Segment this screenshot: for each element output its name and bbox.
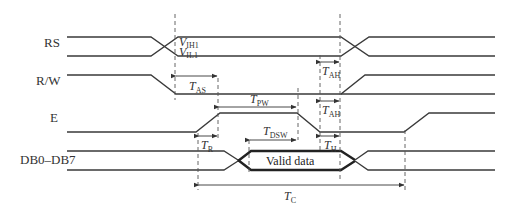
signal-label-rw: R/W bbox=[36, 73, 61, 88]
th-label: TH bbox=[324, 138, 337, 154]
rs-waveform bbox=[67, 37, 495, 56]
tah-rs-label: TAH bbox=[322, 64, 340, 80]
tdsw-label: TDSW bbox=[263, 124, 288, 140]
signal-label-rs: RS bbox=[44, 35, 60, 50]
timing-diagram: RS R/W E DB0–DB7 Valid data VI bbox=[0, 0, 506, 212]
signal-label-db: DB0–DB7 bbox=[20, 152, 76, 167]
tas-label: TAS bbox=[189, 79, 206, 95]
tah-rw-label: TAH bbox=[322, 103, 340, 119]
valid-data-label: Valid data bbox=[266, 154, 315, 168]
tr-label: TR bbox=[201, 138, 214, 154]
signal-label-e: E bbox=[50, 110, 58, 125]
rw-waveform bbox=[67, 75, 495, 94]
e-waveform bbox=[67, 113, 495, 132]
tc-label: TC bbox=[284, 189, 296, 205]
